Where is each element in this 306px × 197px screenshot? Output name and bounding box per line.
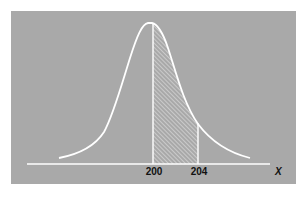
shaded-area (153, 24, 198, 164)
x-axis-label: X (275, 166, 282, 177)
tick-label-200: 200 (146, 166, 163, 177)
tick-label-204: 204 (191, 166, 208, 177)
